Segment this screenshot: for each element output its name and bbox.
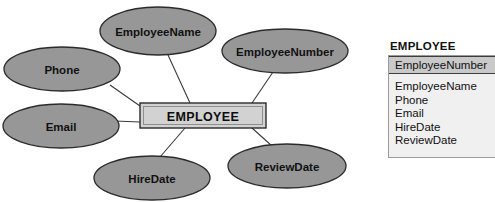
connector-line-reviewdate	[252, 128, 272, 146]
connector-line-phone	[110, 85, 140, 106]
connector-line-employeenumber	[252, 72, 273, 103]
table-field[interactable]: Email	[395, 107, 495, 121]
attribute-ellipse-email[interactable]: Email	[3, 104, 119, 148]
table-title: EMPLOYEE	[388, 40, 495, 52]
attribute-label: Phone	[44, 64, 79, 76]
entity-label: EMPLOYEE	[167, 110, 240, 124]
table-field[interactable]: ReviewDate	[395, 134, 495, 148]
table-key-field-row[interactable]: EmployeeNumber	[389, 56, 495, 74]
attribute-ellipse-reviewdate[interactable]: ReviewDate	[228, 144, 346, 188]
attribute-label: ReviewDate	[255, 161, 320, 173]
entity-box-employee[interactable]: EMPLOYEE	[140, 103, 266, 128]
employee-table-panel: EMPLOYEE EmployeeNumber EmployeeName Pho…	[388, 40, 495, 158]
attribute-label: HireDate	[128, 173, 175, 185]
table-field[interactable]: Phone	[395, 94, 495, 108]
table-field-list: EmployeeName Phone Email HireDate Review…	[389, 74, 495, 157]
attribute-label: EmployeeNumber	[236, 46, 334, 58]
attribute-ellipse-hiredate[interactable]: HireDate	[94, 156, 210, 200]
table-box: EmployeeNumber EmployeeName Phone Email …	[388, 55, 495, 158]
connector-line-hiredate	[160, 128, 185, 157]
er-diagram-canvas: EmployeeName EmployeeNumber Phone Email …	[0, 0, 495, 202]
attribute-ellipse-employeename[interactable]: EmployeeName	[100, 7, 216, 55]
attribute-ellipse-employeenumber[interactable]: EmployeeNumber	[222, 29, 348, 73]
connector-line-employeename	[168, 55, 190, 103]
attribute-label: EmployeeName	[115, 26, 201, 38]
attribute-label: Email	[46, 121, 77, 133]
attribute-ellipse-phone[interactable]: Phone	[4, 47, 120, 91]
table-field[interactable]: HireDate	[395, 121, 495, 135]
table-field[interactable]: EmployeeName	[395, 80, 495, 94]
